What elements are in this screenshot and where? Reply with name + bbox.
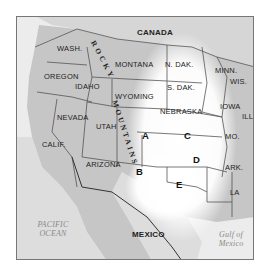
label-oregon: OREGON <box>44 73 79 81</box>
label-utah: UTAH <box>96 123 117 131</box>
pacific-line2: OCEAN <box>31 230 75 239</box>
label-n-dak: N. DAK. <box>165 61 194 69</box>
label-s-dak: S. DAK. <box>167 84 195 92</box>
label-wash: WASH. <box>57 45 82 53</box>
label-idaho: IDAHO <box>75 83 100 91</box>
label-mo: MO. <box>225 133 240 141</box>
label-nebraska: NEBRASKA <box>160 108 202 116</box>
label-wis: WIS. <box>230 78 247 86</box>
label-ill: ILL. <box>242 113 254 121</box>
label-minn: MINN. <box>215 67 237 75</box>
gulf-line2: Mexico <box>211 240 251 249</box>
region-e: E <box>176 180 183 190</box>
label-arizona: ARIZONA <box>86 161 121 169</box>
region-d: D <box>193 155 200 165</box>
label-nevada: NEVADA <box>57 114 89 122</box>
region-b: B <box>136 167 143 177</box>
label-ark: ARK. <box>225 164 243 172</box>
label-canada: CANADA <box>137 29 173 37</box>
label-pacific-ocean: PACIFIC OCEAN <box>31 221 75 239</box>
label-la: LA <box>230 189 240 197</box>
label-gulf-of-mexico: Gulf of Mexico <box>211 231 251 249</box>
label-montana: MONTANA <box>115 61 153 69</box>
region-c: C <box>184 131 191 141</box>
label-mexico: MEXICO <box>132 231 165 239</box>
label-iowa: IOWA <box>220 103 241 111</box>
label-calif: CALIF. <box>42 141 66 149</box>
region-a: A <box>142 131 149 141</box>
map-frame: CANADA WASH. OREGON IDAHO MONTANA WYOMIN… <box>16 16 254 260</box>
label-wyoming: WYOMING <box>115 93 154 101</box>
